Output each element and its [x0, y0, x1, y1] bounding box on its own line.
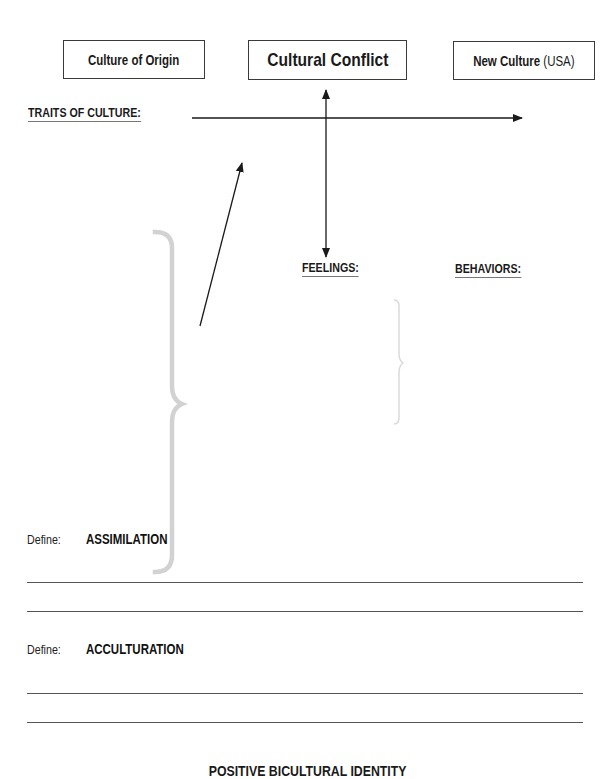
culture-of-origin-label: Culture of Origin [88, 52, 179, 68]
small-curly-brace-icon [394, 300, 403, 424]
feelings-heading: FEELINGS: [302, 261, 359, 277]
new-culture-label: New Culture (USA) [473, 53, 574, 69]
acculturation-answer-line-2[interactable] [27, 722, 583, 723]
assimilation-answer-line-2[interactable] [27, 611, 583, 612]
define-prompt: Define: [27, 532, 64, 548]
assimilation-answer-line-1[interactable] [27, 582, 583, 583]
arrow-up-right-icon [200, 163, 242, 326]
large-curly-brace-icon [155, 232, 182, 572]
footer-title-text: POSITIVE BICULTURAL IDENTITY [209, 763, 407, 779]
behaviors-heading: BEHAVIORS: [455, 262, 521, 278]
assimilation-term: ASSIMILATION [86, 531, 167, 547]
acculturation-answer-line-1[interactable] [27, 693, 583, 694]
culture-of-origin-box: Culture of Origin [63, 40, 205, 79]
define-assimilation-row: Define: ASSIMILATION [27, 531, 186, 548]
acculturation-term: ACCULTURATION [86, 641, 184, 657]
new-culture-box: New Culture (USA) [453, 41, 595, 80]
cultural-conflict-box: Cultural Conflict [248, 40, 407, 80]
new-culture-label-main: New Culture [473, 53, 540, 69]
new-culture-label-country: (USA) [543, 53, 574, 69]
define-acculturation-row: Define: ACCULTURATION [27, 641, 206, 658]
positive-bicultural-identity-title: POSITIVE BICULTURAL IDENTITY [0, 763, 615, 779]
cultural-conflict-label: Cultural Conflict [267, 49, 388, 71]
traits-of-culture-heading: TRAITS OF CULTURE: [28, 106, 141, 122]
define-prompt: Define: [27, 642, 64, 658]
